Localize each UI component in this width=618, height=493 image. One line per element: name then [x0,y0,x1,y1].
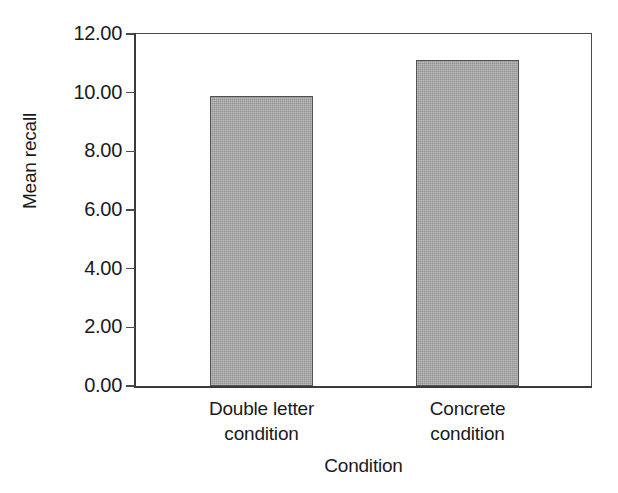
category-label-line2: condition [147,421,377,446]
category-label-1: Double lettercondition [147,396,377,446]
bar-2 [416,60,519,386]
y-axis-tick-label-text: 12.00 [30,23,122,43]
y-axis-tick-label-text: 2.00 [30,316,122,336]
y-axis-tick-mark [126,385,135,387]
category-label-line1: Concrete [430,398,506,419]
bar-chart-figure: 12.0010.008.006.004.002.000.00 Double le… [0,0,618,493]
bar-1 [210,96,313,386]
x-axis-title: Condition [135,455,592,477]
y-axis-tick-label-text: 6.00 [30,199,122,219]
y-axis-title: Mean recall [19,71,41,251]
y-axis-tick-label-text: 0.00 [30,375,122,395]
y-axis-tick-mark [126,268,135,270]
y-axis-tick-label-text: 4.00 [30,258,122,278]
y-axis-tick-mark [126,92,135,94]
y-axis-tick-mark [126,327,135,329]
y-axis-tick-mark [126,209,135,211]
y-axis-tick-label: 12.00 [24,23,122,43]
category-label-line1: Double letter [209,398,314,419]
x-axis-line [134,386,592,388]
y-axis-tick-mark [126,151,135,153]
y-axis-tick-label-text: 10.00 [30,82,122,102]
y-axis-tick-label-text: 8.00 [30,140,122,160]
y-axis-tick-mark [126,33,135,35]
category-label-line2: condition [353,421,583,446]
category-label-2: Concretecondition [353,396,583,446]
y-axis-tick-label: 2.00 [24,316,122,336]
y-axis-tick-label: 0.00 [24,375,122,395]
bars-layer [136,34,591,386]
y-axis-tick-label: 4.00 [24,258,122,278]
